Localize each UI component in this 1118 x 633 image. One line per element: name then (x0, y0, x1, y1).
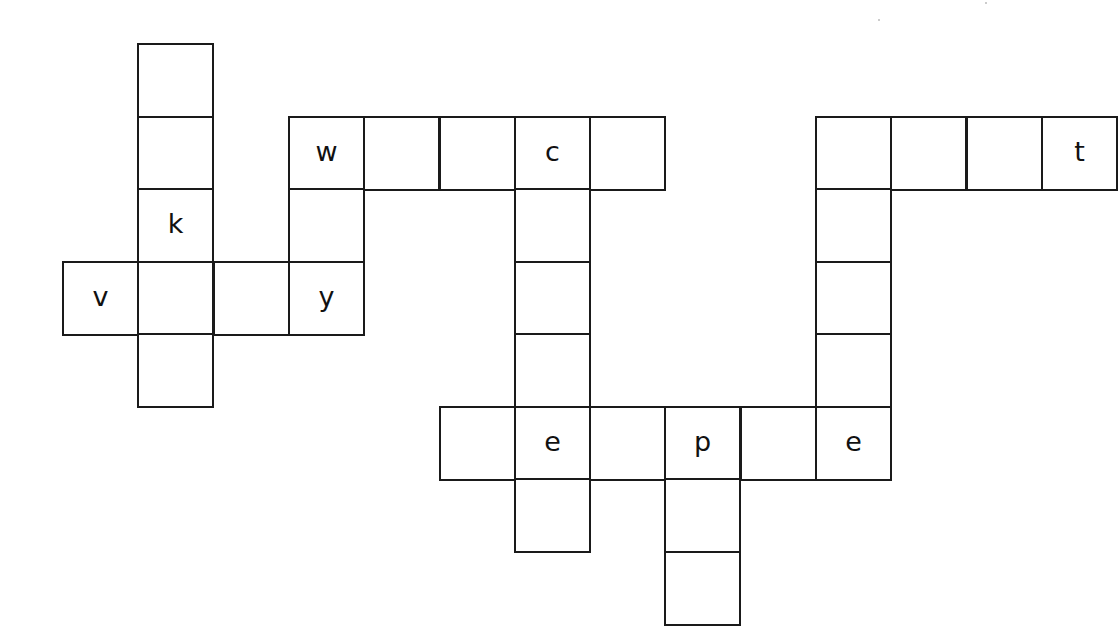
crossword-cell-empty[interactable] (514, 188, 591, 263)
crossword-cell-empty[interactable] (439, 116, 516, 191)
crossword-cell-empty[interactable] (815, 333, 892, 408)
crossword-cell-empty[interactable] (664, 551, 741, 626)
crossword-cell-empty[interactable] (514, 333, 591, 408)
crossword-cell-given-t: t (1041, 116, 1118, 191)
crossword-cell-given-w: w (288, 116, 365, 191)
crossword-cell-empty[interactable] (137, 261, 214, 336)
crossword-cell-empty[interactable] (213, 261, 290, 336)
crossword-cell-empty[interactable] (589, 406, 666, 481)
crossword-cell-empty[interactable] (815, 261, 892, 336)
crossword-cell-empty[interactable] (740, 406, 817, 481)
crossword-cell-empty[interactable] (815, 116, 892, 191)
crossword-cell-given-v: v (62, 261, 139, 336)
crossword-cell-empty[interactable] (815, 188, 892, 263)
crossword-cell-given-y: y (288, 261, 365, 336)
scan-speck (985, 2, 987, 4)
crossword-cell-empty[interactable] (137, 43, 214, 118)
crossword-cell-empty[interactable] (514, 261, 591, 336)
crossword-cell-given-k: k (137, 188, 214, 263)
crossword-cell-given-e: e (514, 406, 591, 481)
crossword-cell-empty[interactable] (589, 116, 666, 191)
crossword-cell-empty[interactable] (966, 116, 1043, 191)
crossword-cell-empty[interactable] (137, 116, 214, 191)
crossword-cell-empty[interactable] (288, 188, 365, 263)
scan-speck (878, 19, 880, 21)
crossword-cell-empty[interactable] (439, 406, 516, 481)
crossword-cell-given-p: p (664, 406, 741, 481)
crossword-cell-empty[interactable] (363, 116, 440, 191)
crossword-cell-empty[interactable] (514, 478, 591, 553)
crossword-cell-empty[interactable] (664, 478, 741, 553)
crossword-cell-given-e: e (815, 406, 892, 481)
crossword-cell-given-c: c (514, 116, 591, 191)
crossword-cell-empty[interactable] (890, 116, 967, 191)
crossword-cell-empty[interactable] (137, 333, 214, 408)
